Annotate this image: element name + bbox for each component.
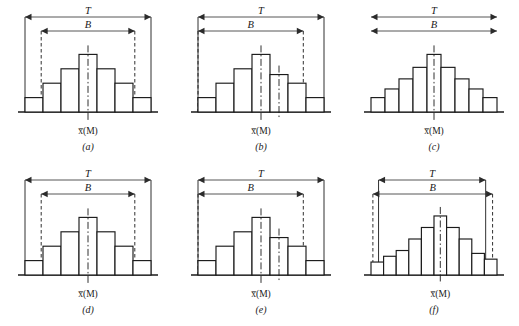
mean-label-text: x̅(M) xyxy=(78,126,98,137)
histogram-bar xyxy=(483,98,497,112)
panel-caption-c: (c) xyxy=(428,141,440,153)
spread-label-c: B xyxy=(431,19,438,30)
panel-caption-b: (b) xyxy=(255,141,267,153)
histogram-bar xyxy=(43,246,61,275)
histogram-bar xyxy=(133,261,151,275)
histogram-bar xyxy=(115,83,133,112)
mean-label-f: x̅(M) xyxy=(430,289,450,300)
mean-label-e: x̅(M) xyxy=(251,289,271,300)
histogram-panel-b: TBx̅(M)(b) xyxy=(173,0,346,163)
spread-label-e: B xyxy=(247,182,254,193)
tolerance-label-b: T xyxy=(258,5,265,16)
tolerance-label-a: T xyxy=(85,5,92,16)
histogram-bar xyxy=(216,246,234,275)
mean-label-text: x̅(M) xyxy=(78,289,98,300)
histogram-bar xyxy=(43,83,61,112)
histogram-bar xyxy=(413,67,427,112)
histogram-bar xyxy=(385,89,399,112)
histogram-bar xyxy=(421,227,434,275)
panel-caption-d: (d) xyxy=(82,304,94,316)
histogram-panel-f: TBx̅(M)(f) xyxy=(346,163,519,326)
tolerance-label-f: T xyxy=(429,168,436,179)
histogram-panel-e: TBx̅(M)(e) xyxy=(173,163,346,326)
mean-label-text: x̅(M) xyxy=(424,126,444,137)
histogram-bar xyxy=(371,98,385,112)
mean-label-text: x̅(M) xyxy=(430,289,450,300)
histogram-bar xyxy=(306,261,324,275)
histogram-bar xyxy=(288,246,306,275)
histogram-bars-f xyxy=(371,216,497,275)
histogram-bar xyxy=(25,98,43,112)
histogram-bar xyxy=(447,227,460,275)
spread-label-a: B xyxy=(85,19,92,30)
histogram-bar xyxy=(306,98,324,112)
histogram-bar xyxy=(234,69,252,112)
spread-label-f: B xyxy=(430,182,437,193)
histogram-panel-c: TBx̅(M)(c) xyxy=(346,0,519,163)
spread-label-d: B xyxy=(85,182,92,193)
histogram-bar xyxy=(399,79,413,112)
histogram-bar xyxy=(484,259,497,275)
histogram-bar xyxy=(441,67,455,112)
histogram-bar xyxy=(61,232,79,275)
mean-label-b: x̅(M) xyxy=(251,126,271,137)
histogram-bar xyxy=(409,239,422,275)
histogram-bar xyxy=(198,98,216,112)
histogram-bar xyxy=(97,69,115,112)
panel-caption-f: (f) xyxy=(429,304,439,316)
figure-root: TBx̅(M)(a)TBx̅(M)(b)TBx̅(M)(c)TBx̅(M)(d)… xyxy=(0,0,519,326)
mean-label-a: x̅(M) xyxy=(78,126,98,137)
mean-label-d: x̅(M) xyxy=(78,289,98,300)
mean-label-text: x̅(M) xyxy=(251,126,271,137)
histogram-bar xyxy=(133,98,151,112)
histogram-bar xyxy=(234,232,252,275)
panel-caption-a: (a) xyxy=(82,141,94,153)
histogram-bar xyxy=(97,232,115,275)
histogram-bar xyxy=(216,83,234,112)
histogram-panel-d: TBx̅(M)(d) xyxy=(0,163,173,326)
mean-label-c: x̅(M) xyxy=(424,126,444,137)
histogram-bar xyxy=(288,83,306,112)
histogram-panel-a: TBx̅(M)(a) xyxy=(0,0,173,163)
tolerance-label-d: T xyxy=(85,168,92,179)
mean-label-text: x̅(M) xyxy=(251,289,271,300)
histogram-bar xyxy=(459,239,472,275)
histogram-bar xyxy=(396,251,409,275)
histogram-bar xyxy=(115,246,133,275)
panel-caption-e: (e) xyxy=(255,304,267,316)
histogram-bar xyxy=(472,253,485,275)
histogram-bar xyxy=(198,261,216,275)
tolerance-label-e: T xyxy=(258,168,265,179)
histogram-bar xyxy=(61,69,79,112)
histogram-bar xyxy=(469,89,483,112)
histogram-bar xyxy=(25,261,43,275)
spread-label-b: B xyxy=(247,19,254,30)
tolerance-label-c: T xyxy=(431,5,438,16)
histogram-bar xyxy=(455,79,469,112)
histogram-bar xyxy=(371,262,384,275)
histogram-bar xyxy=(384,256,397,275)
